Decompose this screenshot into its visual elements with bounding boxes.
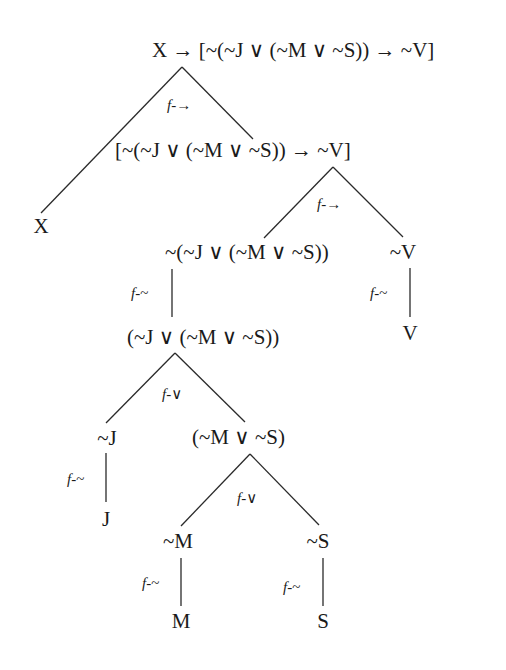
node-not-m: ~M — [163, 529, 193, 553]
node-not-j: ~J — [97, 426, 117, 450]
node-j: J — [102, 507, 110, 531]
node-conditional: [~(~J ∨ (~M ∨ ~S)) → ~V] — [115, 138, 351, 162]
rule-label-disjunction: f-∨ — [162, 385, 182, 403]
tree-edge — [182, 67, 253, 139]
rule-label-negation: f-~ — [131, 284, 148, 302]
rule-label-negation: f-~ — [67, 470, 84, 488]
node-not-v: ~V — [390, 240, 417, 264]
rule-label-negation: f-~ — [370, 284, 387, 302]
node-inner-disjunction: (~M ∨ ~S) — [192, 425, 285, 449]
node-root: X → [~(~J ∨ (~M ∨ ~S)) → ~V] — [152, 38, 434, 62]
tree-edge — [333, 167, 403, 237]
rule-label-disjunction: f-∨ — [237, 489, 257, 507]
rule-label-conditional: f-→ — [167, 96, 191, 114]
logic-tree-diagram: X → [~(~J ∨ (~M ∨ ~S)) → ~V] X [~(~J ∨ (… — [0, 0, 506, 670]
tree-edge — [175, 353, 245, 422]
tree-edge — [250, 454, 319, 525]
rule-label-negation: f-~ — [283, 578, 300, 596]
node-v: V — [402, 321, 417, 345]
rule-label-conditional: f-→ — [317, 195, 341, 213]
node-m: M — [172, 609, 191, 633]
rule-label-negation: f-~ — [142, 574, 159, 592]
node-negated-disjunction: ~(~J ∨ (~M ∨ ~S)) — [165, 240, 329, 264]
node-not-s: ~S — [306, 529, 329, 553]
node-s: S — [317, 609, 329, 633]
node-disjunction: (~J ∨ (~M ∨ ~S)) — [127, 325, 279, 349]
node-x: X — [33, 214, 48, 238]
